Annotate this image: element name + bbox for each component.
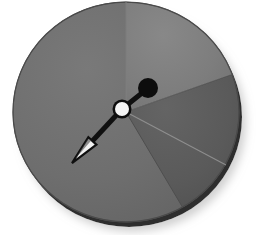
pivot-hub-center[interactable] <box>115 102 129 116</box>
disc-pointer-diagram <box>0 0 256 235</box>
figure-canvas <box>0 0 256 235</box>
tail-knob-dot[interactable] <box>138 78 158 98</box>
